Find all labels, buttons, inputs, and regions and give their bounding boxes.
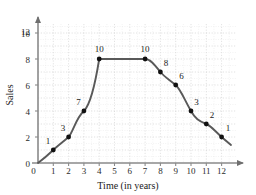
data-point-marker xyxy=(82,109,87,114)
x-tick-label-3: 3 xyxy=(82,166,87,176)
data-point-marker xyxy=(204,122,209,127)
data-point-marker xyxy=(143,57,148,62)
data-point-label-y3: 7 xyxy=(76,97,81,107)
x-tick-label-2: 2 xyxy=(66,166,71,176)
x-tick-label-11: 11 xyxy=(202,166,211,176)
chart-canvas: 0 2 4 6 8 10 12 0 1 2 3 4 5 6 7 8 9 10 1 xyxy=(0,0,256,195)
data-point-marker xyxy=(66,135,71,140)
y-axis-title: Sales xyxy=(4,84,15,105)
data-point-marker xyxy=(97,57,102,62)
data-point-label-y2: 3 xyxy=(61,123,66,133)
x-tick-label-10: 10 xyxy=(187,166,197,176)
x-tick-label-8: 8 xyxy=(158,166,163,176)
x-tick-label-6: 6 xyxy=(128,166,133,176)
data-point-marker xyxy=(158,70,163,75)
data-point-marker xyxy=(51,148,56,153)
x-tick-label-7: 7 xyxy=(143,166,148,176)
major-gridlines xyxy=(38,24,236,163)
data-point-marker xyxy=(219,135,224,140)
data-point-label-y10: 3 xyxy=(194,97,199,107)
y-tick-label-0: 0 xyxy=(26,159,31,169)
data-point-marker xyxy=(189,109,194,114)
x-tick-label-1: 1 xyxy=(51,166,56,176)
x-tick-label-4: 4 xyxy=(97,166,102,176)
data-point-marker xyxy=(173,83,178,88)
data-point-label-y7: 10 xyxy=(141,44,151,54)
data-point-label-y9: 6 xyxy=(179,71,184,81)
y-tick-label-8: 8 xyxy=(26,55,31,65)
x-tick-label-9: 9 xyxy=(173,166,178,176)
x-tick-label-5: 5 xyxy=(112,166,117,176)
x-tick-label-12: 12 xyxy=(217,166,226,176)
y-tick-label-2: 2 xyxy=(26,133,31,143)
data-point-label-y11: 2 xyxy=(210,110,215,120)
data-point-label-y1: 1 xyxy=(46,136,51,146)
data-point-label-y12: 1 xyxy=(226,123,231,133)
x-tick-labels: 0 1 2 3 4 5 6 7 8 9 10 11 12 xyxy=(31,166,226,176)
x-tick-label-0: 0 xyxy=(31,166,36,176)
data-point-label-y8: 8 xyxy=(164,58,169,68)
x-axis-title: Time (in years) xyxy=(97,180,158,192)
data-point-label-y4: 10 xyxy=(95,44,105,54)
y-tick-label-6: 6 xyxy=(26,81,31,91)
sales-over-time-chart: 0 2 4 6 8 10 12 0 1 2 3 4 5 6 7 8 9 10 1 xyxy=(0,0,256,195)
y-tick-label-4: 4 xyxy=(26,107,31,117)
y-tick-label-12: 12 xyxy=(0,27,30,37)
